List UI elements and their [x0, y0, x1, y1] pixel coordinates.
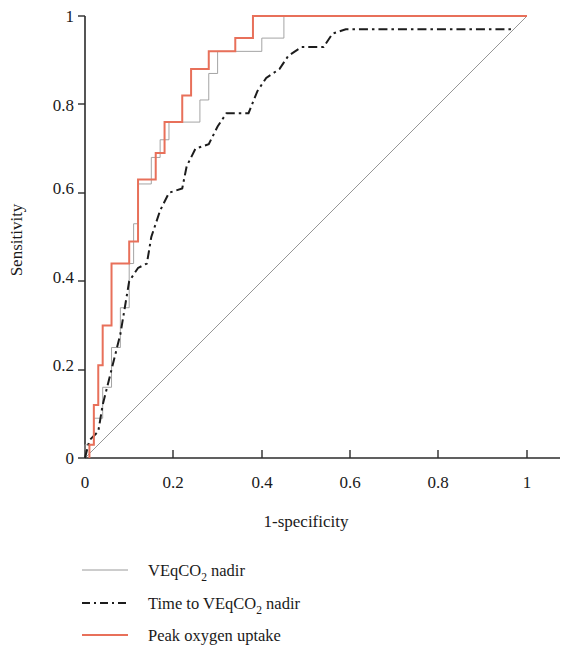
- x-tick-label: 1: [523, 473, 532, 492]
- y-tick-label: 0: [66, 449, 75, 468]
- curves-group: [85, 16, 527, 458]
- x-tick-label: 0.6: [339, 473, 360, 492]
- y-tick-label: 0.4: [53, 268, 75, 287]
- y-tick-label: 0.8: [53, 96, 74, 115]
- roc-curve-figure: Sensitivity 1 0.8 0.6 0.4 0.2 0: [0, 0, 569, 648]
- peak-oxygen-uptake-curve: [89, 16, 527, 458]
- y-tick-labels: 1 0.8 0.6 0.4 0.2 0: [53, 7, 75, 468]
- y-tick-label: 1: [66, 7, 75, 26]
- x-tick-label: 0.2: [162, 473, 183, 492]
- legend: VEqCO2 nadir Time to VEqCO2 nadir Peak o…: [82, 561, 300, 645]
- y-tick-marks: [78, 16, 85, 458]
- x-tick-marks: [85, 450, 527, 458]
- roc-chart-svg: Sensitivity 1 0.8 0.6 0.4 0.2 0: [0, 0, 569, 648]
- y-tick-label: 0.6: [53, 179, 74, 198]
- x-axis-title: 1-specificity: [264, 512, 349, 531]
- legend-label-peak-oxygen-uptake: Peak oxygen uptake: [148, 626, 281, 645]
- y-axis-title: Sensitivity: [7, 203, 26, 276]
- x-tick-label: 0.4: [251, 473, 273, 492]
- legend-label-veqco2-nadir: VEqCO2 nadir: [148, 561, 245, 583]
- x-tick-label: 0.8: [427, 473, 448, 492]
- legend-label-time-to-veqco2-nadir: Time to VEqCO2 nadir: [148, 594, 300, 616]
- x-tick-labels: 0 0.2 0.4 0.6 0.8 1: [81, 473, 532, 492]
- y-tick-label: 0.2: [53, 356, 74, 375]
- x-tick-label: 0: [81, 473, 90, 492]
